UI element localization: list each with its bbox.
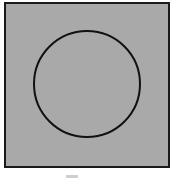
caption-text bbox=[0, 172, 173, 179]
circle-diagram bbox=[0, 0, 173, 179]
circle-shape bbox=[34, 31, 140, 137]
